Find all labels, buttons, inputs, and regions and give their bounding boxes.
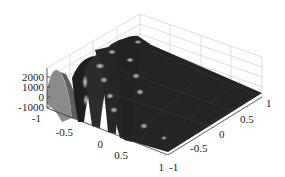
svg-text:-1: -1 bbox=[32, 112, 41, 124]
svg-text:0.5: 0.5 bbox=[240, 113, 254, 125]
svg-text:0: 0 bbox=[219, 128, 225, 140]
svg-text:-0.5: -0.5 bbox=[56, 126, 74, 138]
svg-text:0: 0 bbox=[98, 138, 104, 150]
svg-text:1: 1 bbox=[266, 97, 272, 109]
svg-text:0.5: 0.5 bbox=[114, 149, 128, 161]
svg-text:1: 1 bbox=[159, 161, 165, 173]
z-tick-labels: 2000 1000 0 -1000 bbox=[18, 71, 44, 113]
surface-plot: 2000 1000 0 -1000 -1 -0.5 0 0.5 1 -1 -0.… bbox=[0, 0, 285, 177]
svg-text:-0.5: -0.5 bbox=[190, 142, 208, 154]
svg-text:-1: -1 bbox=[169, 161, 178, 173]
surface bbox=[47, 36, 262, 152]
